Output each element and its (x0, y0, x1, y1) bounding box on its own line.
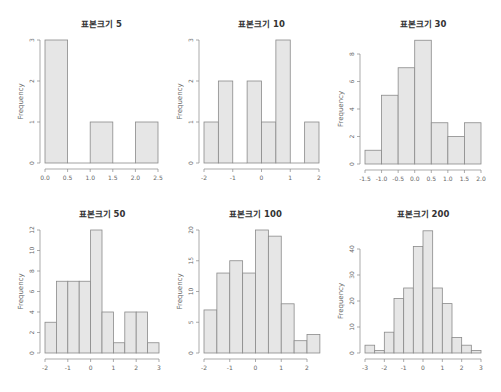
x-tick-label: 0.0 (40, 174, 50, 181)
y-tick-label: 20 (348, 297, 355, 305)
x-tick-label: -0.5 (392, 175, 404, 182)
histogram-bar (135, 122, 158, 163)
x-tick-label: 0 (254, 364, 258, 371)
x-tick-label: 2 (460, 364, 464, 371)
histogram-bar (431, 123, 448, 164)
histogram-panel: 표본크기 100123Frequency-2-1012 (176, 19, 321, 181)
histogram-bar (462, 345, 472, 353)
histogram-grid: 표본크기 50123Frequency0.00.51.01.52.02.5표본크… (0, 0, 501, 392)
x-tick-label: 0.5 (427, 175, 437, 182)
histogram-panel: 표본크기 50024681012Frequency-2-10123 (17, 209, 161, 371)
y-axis-label: Frequency (337, 91, 345, 127)
x-tick-label: 0 (421, 364, 425, 371)
histogram-bar (305, 122, 319, 163)
y-tick-label: 1 (28, 120, 35, 124)
y-tick-label: 30 (348, 271, 355, 279)
y-tick-label: 10 (28, 247, 35, 255)
histogram-bar (276, 40, 290, 163)
histogram-bar (56, 281, 67, 353)
histogram-bar (433, 288, 443, 353)
histogram-bar (68, 281, 79, 353)
histogram-bar (281, 304, 294, 353)
y-tick-label: 2 (187, 79, 194, 83)
histogram-bar (247, 81, 261, 163)
histogram-bar (365, 345, 375, 353)
x-tick-label: -2 (201, 364, 207, 371)
histogram-bar (268, 236, 281, 353)
y-tick-label: 4 (28, 310, 35, 314)
x-tick-label: -1 (65, 364, 71, 371)
x-tick-label: -1 (230, 174, 236, 181)
y-tick-label: 0 (28, 161, 35, 165)
y-tick-label: 2 (28, 79, 35, 83)
histogram-bar (45, 322, 56, 353)
y-tick-label: 15 (187, 257, 194, 265)
histogram-bar (45, 40, 68, 163)
chart-title: 표본크기 200 (397, 209, 450, 219)
x-tick-label: 1.5 (460, 175, 470, 182)
x-tick-label: 1 (279, 364, 283, 371)
chart-title: 표본크기 50 (79, 209, 126, 219)
x-tick-label: 2 (317, 174, 321, 181)
histogram-bar (394, 298, 404, 353)
y-tick-label: 3 (28, 38, 35, 42)
y-tick-label: 40 (348, 245, 355, 253)
x-tick-label: 1.0 (85, 174, 95, 181)
x-tick-label: 3 (479, 364, 483, 371)
x-tick-label: 2.0 (131, 174, 141, 181)
y-tick-label: 20 (187, 226, 194, 234)
histogram-bar (102, 312, 113, 353)
y-tick-label: 5 (187, 320, 194, 324)
x-tick-label: -2 (42, 364, 48, 371)
histogram-bar (442, 304, 452, 353)
histogram-bar (452, 337, 462, 353)
chart-title: 표본크기 5 (81, 19, 122, 29)
histogram-bar (256, 230, 269, 353)
histogram-bar (375, 350, 385, 353)
x-tick-label: 0 (89, 364, 93, 371)
histogram-figure: 표본크기 50123Frequency0.00.51.01.52.02.5표본크… (0, 0, 501, 392)
x-tick-label: -1.0 (376, 175, 388, 182)
histogram-bar (125, 312, 136, 353)
y-tick-label: 0 (348, 162, 355, 166)
histogram-bar (113, 343, 124, 353)
y-tick-label: 2 (28, 330, 35, 334)
histogram-bar (365, 150, 382, 164)
x-tick-label: 2.5 (153, 174, 163, 181)
histogram-bar (404, 288, 414, 353)
histogram-bar (204, 310, 217, 353)
y-axis-label: Frequency (337, 283, 345, 319)
y-tick-label: 2 (348, 134, 355, 138)
x-tick-label: 1.5 (108, 174, 118, 181)
histogram-bar (382, 95, 399, 164)
histogram-bar (262, 122, 276, 163)
x-tick-label: 0 (260, 174, 264, 181)
histogram-panel: 표본크기 50123Frequency0.00.51.01.52.02.5 (17, 19, 163, 181)
y-tick-label: 4 (348, 107, 355, 111)
y-axis-label: Frequency (176, 273, 184, 309)
y-axis-label: Frequency (17, 83, 25, 119)
chart-title: 표본크기 10 (238, 19, 285, 29)
x-tick-label: -1.5 (359, 175, 371, 182)
histogram-bar (136, 312, 147, 353)
histogram-panel: 표본크기 200010203040Frequency-3-2-10123 (337, 209, 483, 371)
y-tick-label: 0 (187, 161, 194, 165)
x-tick-label: 1 (288, 174, 292, 181)
chart-title: 표본크기 100 (229, 209, 282, 219)
y-tick-label: 1 (187, 120, 194, 124)
x-tick-label: 1 (111, 364, 115, 371)
y-tick-label: 8 (28, 269, 35, 273)
histogram-bar (413, 246, 423, 353)
y-tick-label: 10 (348, 323, 355, 331)
histogram-panel: 표본크기 10005101520Frequency-2-1012 (176, 209, 320, 371)
x-tick-label: -2 (381, 364, 387, 371)
histogram-bar (471, 350, 481, 353)
x-tick-label: 3 (157, 364, 161, 371)
y-tick-label: 12 (28, 226, 35, 234)
y-tick-label: 8 (348, 52, 355, 56)
x-tick-label: 2.0 (476, 175, 486, 182)
histogram-bar (204, 122, 218, 163)
x-tick-label: 2 (305, 364, 309, 371)
y-tick-label: 0 (28, 351, 35, 355)
histogram-bar (415, 40, 432, 164)
